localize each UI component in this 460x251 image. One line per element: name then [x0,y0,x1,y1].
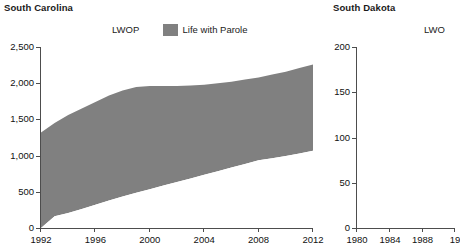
x-tick-label-2008: 2008 [248,235,269,245]
x-tick-label-1984: 1984 [379,235,400,245]
x-tick-1988 [422,228,423,232]
x-tick-label-1992: 1992 [30,235,51,245]
legend-swatch-life-with-parole [163,24,178,36]
y-tick-label-500: 500 [18,187,34,197]
y-tick-100 [352,138,357,139]
legend-label-lwop: LWOP [112,24,139,36]
y-axis-line [40,47,41,229]
x-tick-label-2012: 2012 [302,235,323,245]
x-tick-2008 [258,228,259,232]
y-tick-label-200: 200 [334,42,350,52]
y-tick-2500 [36,47,41,48]
legend-entry-lwop: LWOP [112,24,139,36]
x-tick-1996 [94,228,95,232]
y-tick-label-0: 0 [29,223,34,233]
legend-label-life-with-parole: Life with Parole [183,24,248,36]
y-tick-50 [352,183,357,184]
panel-title-south-carolina: South Carolina [4,2,73,13]
x-tick-label-1988: 1988 [412,235,433,245]
x-tick-2000 [149,228,150,232]
x-tick-1984 [389,228,390,232]
x-tick-label-2000: 2000 [139,235,160,245]
legend-label-lwop-clipped: LWO [424,24,445,36]
y-tick-label-100: 100 [334,133,350,143]
x-tick-label-2004: 2004 [194,235,215,245]
y-tick-label-50: 50 [339,178,350,188]
x-tick-label-1996: 1996 [85,235,106,245]
x-tick-1992 [40,228,41,232]
y-tick-label-150: 150 [334,87,350,97]
y-tick-label-2500: 2,500 [10,42,34,52]
x-tick-label-1992-clipped: 19 [450,235,460,245]
x-tick-2004 [203,228,204,232]
x-tick-1992-sd [454,228,455,232]
y-tick-label-1000: 1,000 [10,151,34,161]
y-tick-label-2000: 2,000 [10,78,34,88]
x-tick-2012 [312,228,313,232]
x-tick-label-1980: 1980 [346,235,367,245]
stacked-area-series [41,47,313,229]
chart-legend-south-dakota: LWO [424,24,445,38]
y-tick-label-1500: 1,500 [10,114,34,124]
y-tick-2000 [36,83,41,84]
chart-panel-south-carolina: South Carolina LWOP Life with Parole 2,5… [0,0,330,251]
y-tick-200 [352,47,357,48]
y-tick-500 [36,192,41,193]
x-axis-line [40,228,313,229]
y-tick-1500 [36,119,41,120]
chart-panel-south-dakota: South Dakota LWO 200 150 100 50 0 1980 1… [330,0,454,251]
y-tick-1000 [36,156,41,157]
legend-entry-lwop-clipped: LWO [424,24,445,36]
y-tick-label-0-sd: 0 [345,223,350,233]
panel-title-south-dakota: South Dakota [333,2,395,13]
plot-area-south-carolina: 2,500 2,000 1,500 1,000 500 0 1992 1996 … [41,47,313,228]
y-tick-150 [352,92,357,93]
chart-legend-south-carolina: LWOP Life with Parole [112,24,248,38]
x-tick-1980 [356,228,357,232]
plot-area-south-dakota: 200 150 100 50 0 1980 1984 1988 19 [357,47,454,228]
legend-entry-life-with-parole: Life with Parole [163,24,248,36]
x-axis-line-sd [356,228,454,229]
